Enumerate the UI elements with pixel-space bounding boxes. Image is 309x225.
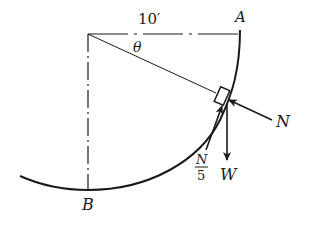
radius-line-to-block <box>88 34 216 93</box>
angle-label: θ <box>133 39 142 55</box>
radius-label: 10′ <box>138 10 161 28</box>
point-b-label: B <box>81 195 94 214</box>
normal-force-label: N <box>275 112 291 131</box>
friction-force-arrow <box>206 106 222 150</box>
friction-label-denominator: 5 <box>197 168 205 183</box>
weight-label: W <box>220 165 238 184</box>
point-a-label: A <box>233 8 246 26</box>
friction-label-numerator: N <box>195 152 208 167</box>
normal-force-arrow <box>229 100 272 120</box>
free-body-diagram: 10′ θ A B N W N 5 <box>0 0 309 225</box>
